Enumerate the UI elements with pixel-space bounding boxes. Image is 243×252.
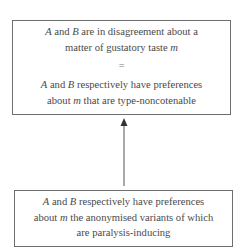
variable-m: m [60,212,68,223]
statement-line-1: A and B are in disagreement about a [13,24,230,40]
variable-m: m [73,95,81,106]
bottom-box-paralysis-inducing: A and B respectively have preferences ab… [14,190,233,247]
text-fragment: about [47,95,73,106]
text-fragment: matter of gustatory taste [65,42,170,53]
noncotenability-definition: A and B respectively have preferences ab… [13,77,230,108]
text-fragment: respectively have preferences [74,79,202,90]
definition-line-2: about m that are type-noncotenable [13,93,230,109]
bottom-line-3: are paralysis-inducing [15,225,232,241]
equals-sign: = [13,56,230,76]
bottom-line-2: about m the anonymised variants of which [15,210,232,226]
statement-line-2: matter of gustatory taste m [13,40,230,56]
variable-m: m [170,42,178,53]
text-fragment: and [52,26,73,37]
definition-line-1: A and B respectively have preferences [13,77,230,93]
text-fragment: are in disagreement about a [79,26,198,37]
bottom-line-1: A and B respectively have preferences [15,194,232,210]
top-box-disagreement-definition: A and B are in disagreement about a matt… [12,20,231,115]
up-arrow-icon [118,118,130,186]
text-fragment: about [34,212,60,223]
text-fragment: that are type-noncotenable [81,95,196,106]
text-fragment: and [49,196,70,207]
text-fragment: respectively have preferences [76,196,204,207]
text-fragment: and [47,79,68,90]
text-fragment: the anonymised variants of which [68,212,214,223]
disagreement-statement: A and B are in disagreement about a matt… [13,24,230,55]
